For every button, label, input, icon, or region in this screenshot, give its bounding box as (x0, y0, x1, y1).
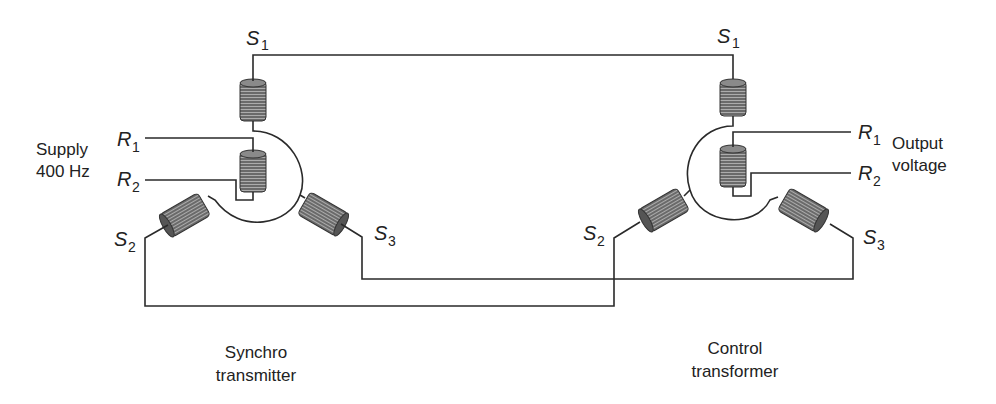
ct-rotor-coil (720, 145, 746, 187)
svg-text:S: S (583, 222, 597, 244)
transmitter-s2-label: S 2 (114, 228, 136, 255)
transmitter-rotor-coil (240, 150, 266, 192)
transmitter-s1-label: S 1 (246, 27, 269, 53)
svg-text:1: 1 (873, 132, 881, 148)
svg-text:S: S (246, 27, 260, 49)
svg-text:S: S (717, 25, 731, 47)
transmitter-stator-coil-s2 (157, 193, 211, 239)
ct-stator-coil-s1 (720, 79, 746, 116)
output-label-line2: voltage (892, 156, 947, 175)
svg-text:3: 3 (877, 237, 885, 253)
ct-r2-label: R 2 (858, 162, 881, 189)
ct-r1-lead (733, 132, 851, 147)
ct-s1-label: S 1 (717, 25, 740, 51)
ct-caption-line1: Control (708, 339, 763, 358)
svg-text:S: S (374, 222, 388, 244)
ct-r1-label: R 1 (858, 121, 881, 148)
transmitter-stator-coil-s1 (240, 79, 266, 121)
control-transformer (636, 79, 851, 234)
svg-text:1: 1 (132, 139, 140, 155)
svg-text:2: 2 (597, 233, 605, 249)
supply-label-line2: 400 Hz (36, 162, 90, 181)
svg-text:2: 2 (873, 173, 881, 189)
transmitter-r2-label: R 2 (117, 168, 140, 195)
svg-text:3: 3 (388, 233, 396, 249)
ct-caption-line2: transformer (692, 362, 779, 381)
svg-text:R: R (117, 128, 131, 150)
svg-text:1: 1 (261, 37, 269, 53)
transmitter-caption-line1: Synchro (225, 343, 287, 362)
svg-text:S: S (114, 228, 128, 250)
s1-connection-wire (253, 55, 733, 81)
svg-text:2: 2 (132, 179, 140, 195)
synchro-diagram: S 1 R 1 R 2 S 2 S 3 Supply 400 Hz Synchr… (0, 0, 996, 404)
ct-stator-coil-s3 (777, 188, 831, 234)
transmitter-stator-coil-s3 (297, 192, 351, 238)
supply-label-line1: Supply (36, 140, 88, 159)
ct-s3-label: S 3 (863, 226, 885, 253)
svg-text:S: S (863, 226, 877, 248)
svg-text:R: R (858, 162, 872, 184)
ct-stator-coil-s2 (636, 188, 690, 234)
svg-text:R: R (858, 121, 872, 143)
ct-s2-label: S 2 (583, 222, 605, 249)
transmitter-r1-lead (145, 138, 253, 152)
transmitter-r1-label: R 1 (117, 128, 140, 155)
transmitter-s3-label: S 3 (374, 222, 396, 249)
output-label-line1: Output (892, 134, 943, 153)
transmitter-caption-line2: transmitter (216, 366, 297, 385)
svg-text:1: 1 (732, 35, 740, 51)
svg-text:2: 2 (128, 239, 136, 255)
svg-text:R: R (117, 168, 131, 190)
synchro-transmitter (145, 55, 853, 306)
